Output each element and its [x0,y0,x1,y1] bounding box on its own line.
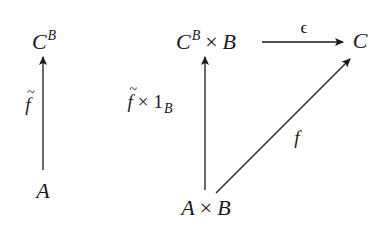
label-subscript: B [164,101,173,116]
node-base: C [176,29,191,54]
label-f-tilde-left: f [25,95,30,114]
commutative-diagram: CB f A CB×B C ϵ f×1B f A×B [0,0,392,225]
node-base: A [36,178,49,203]
node-superscript: B [192,28,201,43]
node-rhs: B [223,29,236,54]
node-A-times-B: A×B [181,197,230,219]
times-operator: × [200,195,212,220]
label-text: ϵ [301,18,308,37]
node-base: C [32,29,47,54]
node-lhs: A [181,195,194,220]
identity-one: 1 [153,91,163,112]
node-A: A [36,180,49,202]
label-base: f [25,95,30,114]
label-f-diagonal: f [294,128,299,147]
label-f-tilde-times-1B: f×1B [127,92,172,116]
times-operator: × [205,29,217,54]
times-operator: × [138,91,149,112]
label-text: f [294,127,299,148]
node-rhs: B [217,195,230,220]
label-base: f [127,92,132,111]
node-base: C [353,28,368,53]
label-epsilon: ϵ [301,19,308,36]
arrow-f [216,59,350,193]
node-C-power-B-left: CB [32,29,56,53]
node-C-power-B-times-B: CB×B [176,29,236,53]
node-C: C [353,30,368,52]
node-superscript: B [48,28,57,43]
